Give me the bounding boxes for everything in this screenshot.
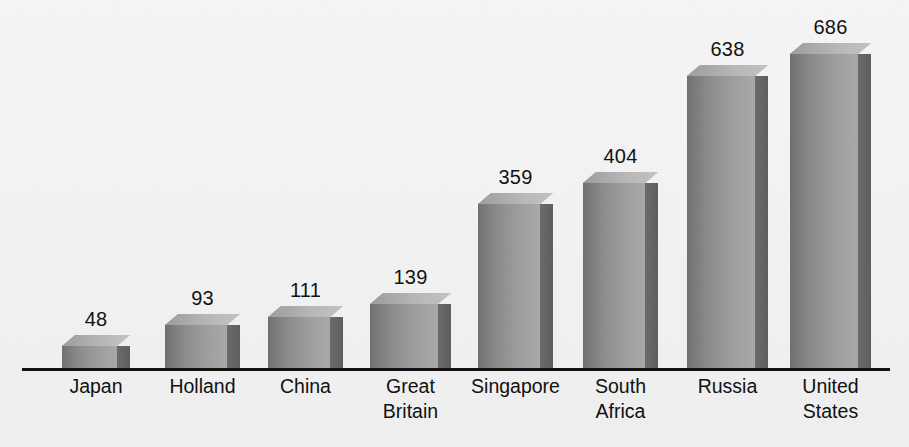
bar-top-face-shading <box>583 172 658 183</box>
bar-front-face <box>478 204 540 368</box>
bar-singapore <box>478 204 540 368</box>
bar-top-face <box>370 293 451 304</box>
bar-great-britain <box>370 304 438 368</box>
bar-top-face <box>687 65 768 76</box>
bar-front-face <box>268 317 330 368</box>
bar-front-face <box>583 183 645 368</box>
bar-top-face-shading <box>478 193 553 204</box>
x-axis-line <box>22 368 890 371</box>
bar-top-face-shading <box>370 293 451 304</box>
bar-top-face-shading <box>62 335 130 346</box>
bar-south-africa <box>583 183 645 368</box>
bar-side-face <box>227 325 240 368</box>
bar-top-face <box>583 172 658 183</box>
bar-japan <box>62 346 117 368</box>
bar-top-face <box>268 306 343 317</box>
bar-united-states <box>790 54 858 368</box>
bar-side-face <box>540 204 553 368</box>
value-label: 638 <box>667 38 788 61</box>
bar-side-face <box>645 183 658 368</box>
bar-side-face <box>858 54 871 368</box>
bar-side-face <box>755 76 768 368</box>
value-label: 139 <box>350 266 471 289</box>
value-label: 686 <box>770 16 891 39</box>
bar-top-face <box>165 314 240 325</box>
value-label: 359 <box>458 166 573 189</box>
bar-top-face-shading <box>790 43 871 54</box>
bar-front-face <box>687 76 755 368</box>
value-label: 404 <box>563 145 678 168</box>
value-label: 111 <box>248 279 363 302</box>
bar-side-face <box>117 346 130 368</box>
value-label: 48 <box>42 308 150 331</box>
bar-chart: 4893111139359404638686 JapanHollandChina… <box>0 0 909 447</box>
bar-top-face <box>790 43 871 54</box>
category-label: United States <box>762 374 899 424</box>
bar-russia <box>687 76 755 368</box>
bar-top-face-shading <box>687 65 768 76</box>
bar-top-face-shading <box>268 306 343 317</box>
bar-front-face <box>62 346 117 368</box>
bar-china <box>268 317 330 368</box>
bar-side-face <box>330 317 343 368</box>
bar-side-face <box>438 304 451 368</box>
bar-top-face-shading <box>165 314 240 325</box>
bar-top-face <box>478 193 553 204</box>
bar-holland <box>165 325 227 368</box>
bar-top-face <box>62 335 130 346</box>
bar-front-face <box>370 304 438 368</box>
value-label: 93 <box>145 287 260 310</box>
bar-front-face <box>790 54 858 368</box>
plot-area: 4893111139359404638686 JapanHollandChina… <box>0 0 909 447</box>
bar-front-face <box>165 325 227 368</box>
